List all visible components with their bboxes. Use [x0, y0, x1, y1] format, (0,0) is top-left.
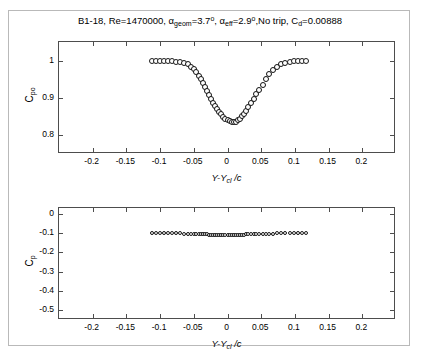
- y-tick: [390, 135, 394, 136]
- x-tick: [329, 208, 330, 212]
- x-tick: [295, 42, 296, 46]
- x-tick-label: 0.1: [288, 322, 300, 332]
- x-tick: [228, 42, 229, 46]
- x-tick: [160, 314, 161, 318]
- y-tick: [390, 252, 394, 253]
- x-tick: [160, 148, 161, 152]
- x-axis-label-top: Y-Ycl /c: [58, 172, 395, 184]
- y-tick-label: -0.4: [24, 285, 54, 295]
- x-axis-label-bottom-suffix: /c: [232, 338, 242, 349]
- y-tick-label: 0.8: [24, 129, 54, 139]
- data-point: [260, 82, 266, 88]
- title-trip: No trip: [258, 15, 286, 26]
- x-tick: [194, 42, 195, 46]
- y-tick-label: 0: [24, 208, 54, 218]
- x-tick: [261, 42, 262, 46]
- x-tick: [126, 208, 127, 212]
- x-tick: [194, 148, 195, 152]
- x-tick-label: -0.2: [84, 156, 99, 166]
- y-tick: [59, 233, 63, 234]
- y-axis-label-bottom: Cp: [24, 231, 36, 291]
- x-tick-label: -0.15: [116, 156, 135, 166]
- title-airfoil: B1-18: [78, 15, 103, 26]
- x-tick-label: 0.05: [252, 156, 269, 166]
- alpha-eff-subscript: eff: [225, 20, 233, 27]
- chart-wake-total-pressure: Cpo Y-Ycl /c -0.2-0.15-0.1-0.0500.050.10…: [58, 41, 395, 153]
- y-tick-label: -0.2: [24, 246, 54, 256]
- y-tick-label: -0.5: [24, 304, 54, 314]
- x-tick-label: 0.05: [252, 322, 269, 332]
- x-tick-label: -0.05: [183, 156, 202, 166]
- y-tick-label: 1: [24, 55, 54, 65]
- x-tick: [329, 148, 330, 152]
- x-tick: [228, 148, 229, 152]
- x-tick: [160, 42, 161, 46]
- y-tick: [59, 291, 63, 292]
- alpha-geom-value: =3.7: [192, 15, 211, 26]
- alpha-geom-subscript: geom: [174, 20, 192, 27]
- x-axis-label-bottom: Y-Ycl /c: [58, 338, 395, 350]
- x-tick: [295, 148, 296, 152]
- x-tick: [160, 208, 161, 212]
- y-tick: [390, 291, 394, 292]
- y-tick-label: -0.1: [24, 227, 54, 237]
- y-tick: [59, 310, 63, 311]
- x-tick: [93, 208, 94, 212]
- x-tick-label: 0.1: [288, 156, 300, 166]
- y-tick: [390, 233, 394, 234]
- axes-bottom: [58, 207, 395, 319]
- x-tick: [362, 148, 363, 152]
- x-tick: [126, 42, 127, 46]
- x-tick: [93, 314, 94, 318]
- x-tick-label: -0.15: [116, 322, 135, 332]
- y-tick: [59, 252, 63, 253]
- x-tick: [126, 314, 127, 318]
- figure-title: B1-18, Re=1470000, αgeom=3.7o, αeff=2.9o…: [9, 15, 411, 27]
- x-tick-label: 0: [224, 322, 229, 332]
- y-tick: [59, 98, 63, 99]
- x-tick: [261, 148, 262, 152]
- y-tick: [390, 214, 394, 215]
- x-tick-label: 0.15: [319, 156, 336, 166]
- x-tick: [295, 314, 296, 318]
- x-tick-label: 0.15: [319, 322, 336, 332]
- x-tick: [93, 148, 94, 152]
- x-axis-label-top-text: Y-Y: [211, 172, 226, 183]
- x-tick: [329, 314, 330, 318]
- x-tick: [362, 42, 363, 46]
- x-tick-label: 0.2: [355, 156, 367, 166]
- y-tick: [390, 272, 394, 273]
- data-point: [303, 58, 309, 64]
- y-tick-label: 0.9: [24, 92, 54, 102]
- alpha-eff-value: =2.9: [233, 15, 252, 26]
- figure-frame: B1-18, Re=1470000, αgeom=3.7o, αeff=2.9o…: [8, 10, 410, 346]
- x-tick: [194, 208, 195, 212]
- x-tick-label: 0.2: [355, 322, 367, 332]
- x-tick-label: -0.2: [84, 322, 99, 332]
- y-tick: [390, 61, 394, 62]
- x-tick: [93, 42, 94, 46]
- y-tick: [59, 214, 63, 215]
- x-axis-label-top-suffix: /c: [232, 172, 242, 183]
- title-reynolds-value: 1470000: [126, 15, 163, 26]
- x-tick: [261, 208, 262, 212]
- data-point: [256, 87, 262, 93]
- y-tick: [59, 272, 63, 273]
- x-tick: [126, 148, 127, 152]
- x-tick: [362, 314, 363, 318]
- x-tick-label: -0.1: [152, 322, 167, 332]
- x-axis-label-bottom-text: Y-Y: [211, 338, 226, 349]
- x-tick-label: 0: [224, 156, 229, 166]
- x-tick: [295, 208, 296, 212]
- title-reynolds-label: Re=: [109, 15, 127, 26]
- x-tick: [228, 208, 229, 212]
- y-tick: [390, 98, 394, 99]
- y-tick: [59, 61, 63, 62]
- x-tick: [261, 314, 262, 318]
- y-tick: [59, 135, 63, 136]
- x-tick-label: -0.1: [152, 156, 167, 166]
- axes-top: [58, 41, 395, 153]
- chart-wake-static-pressure: Cp Y-Ycl /c -0.2-0.15-0.1-0.0500.050.10.…: [58, 207, 395, 319]
- x-tick-label: -0.05: [183, 322, 202, 332]
- x-tick: [194, 314, 195, 318]
